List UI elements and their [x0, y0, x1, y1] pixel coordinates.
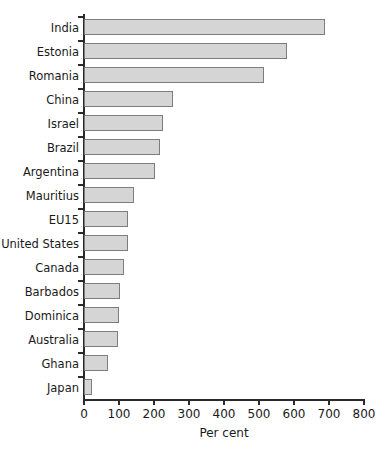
category-label: Dominica: [0, 304, 79, 328]
category-label: Mauritius: [0, 184, 79, 208]
x-axis-tick-label: 500: [239, 406, 279, 422]
category-label: Israel: [0, 112, 79, 136]
bar: [84, 91, 173, 107]
category-label: Brazil: [0, 136, 79, 160]
bar-row: [84, 208, 364, 232]
bar-row: [84, 40, 364, 64]
bar: [84, 307, 119, 323]
bar-row: [84, 64, 364, 88]
category-label: Japan: [0, 376, 79, 400]
x-axis-tick: [293, 400, 295, 405]
bar-row: [84, 160, 364, 184]
bar-chart: IndiaEstoniaRomaniaChinaIsraelBrazilArge…: [0, 0, 384, 450]
category-label: China: [0, 88, 79, 112]
x-axis-tick: [153, 400, 155, 405]
bar: [84, 259, 124, 275]
bar: [84, 235, 128, 251]
x-axis-tick: [83, 400, 85, 405]
bar-row: [84, 304, 364, 328]
x-axis-tick: [118, 400, 120, 405]
x-axis-tick-label: 300: [169, 406, 209, 422]
x-axis-tick: [363, 400, 365, 405]
category-label: EU15: [0, 208, 79, 232]
bar: [84, 283, 120, 299]
bar-row: [84, 88, 364, 112]
category-label: India: [0, 16, 79, 40]
bar: [84, 355, 108, 371]
category-label: Ghana: [0, 352, 79, 376]
x-axis-tick-label: 200: [134, 406, 174, 422]
category-label: Australia: [0, 328, 79, 352]
bar-row: [84, 112, 364, 136]
x-axis-tick: [223, 400, 225, 405]
x-axis-tick-label: 800: [344, 406, 384, 422]
x-axis-tick: [188, 400, 190, 405]
bar: [84, 67, 264, 83]
bar-row: [84, 256, 364, 280]
bar-row: [84, 352, 364, 376]
x-axis-title: Per cent: [84, 426, 364, 440]
category-label: United States: [0, 232, 79, 256]
x-axis-tick: [258, 400, 260, 405]
bar-row: [84, 328, 364, 352]
bar: [84, 115, 163, 131]
bar-row: [84, 280, 364, 304]
bar-row: [84, 16, 364, 40]
x-axis-tick-label: 0: [64, 406, 104, 422]
category-label: Romania: [0, 64, 79, 88]
bar: [84, 19, 325, 35]
category-label: Barbados: [0, 280, 79, 304]
bar: [84, 163, 155, 179]
bar: [84, 139, 160, 155]
bar-row: [84, 376, 364, 400]
x-axis-tick-label: 400: [204, 406, 244, 422]
bar-row: [84, 136, 364, 160]
bar-row: [84, 184, 364, 208]
bars-container: [84, 16, 364, 400]
category-label: Argentina: [0, 160, 79, 184]
bar: [84, 331, 118, 347]
bar: [84, 43, 287, 59]
bar: [84, 187, 134, 203]
x-axis-tick-label: 100: [99, 406, 139, 422]
category-label: Estonia: [0, 40, 79, 64]
bar-row: [84, 232, 364, 256]
x-axis-tick-label: 700: [309, 406, 349, 422]
bar: [84, 211, 128, 227]
category-label: Canada: [0, 256, 79, 280]
x-axis-tick-label: 600: [274, 406, 314, 422]
x-axis-tick: [328, 400, 330, 405]
bar: [84, 379, 92, 395]
